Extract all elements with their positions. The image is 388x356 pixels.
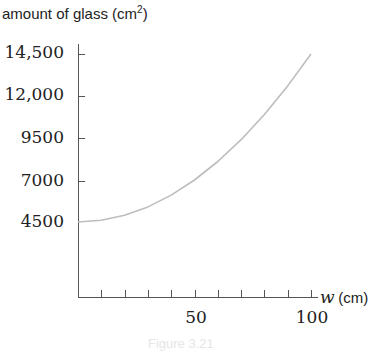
x-tick-label-50: 50 (171, 307, 221, 327)
glass-curve (78, 54, 311, 222)
x-tick-marks (102, 290, 312, 297)
x-tick-label-100: 100 (287, 307, 337, 327)
x-axis-title: w (cm) (320, 287, 368, 307)
figure-caption: Figure 3.21 (148, 336, 214, 351)
